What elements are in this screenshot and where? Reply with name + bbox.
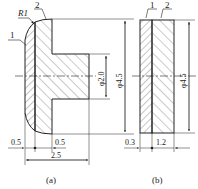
caption-a: (a) — [46, 175, 56, 185]
part2-layer — [152, 20, 174, 133]
figure-a: 1 2 R1 φ2.0 φ4.5 0.5 0.5 2.5 — [8, 0, 134, 185]
dim-outer-diameter-a: φ4.5 — [115, 73, 124, 88]
dim-total-length: 2.5 — [51, 151, 61, 160]
dim-right-offset: 0.5 — [55, 138, 65, 147]
figure-b: 1 2 φ4.5 0.3 1.2 (b) — [124, 0, 196, 185]
technical-drawing: 1 2 R1 φ2.0 φ4.5 0.5 0.5 2.5 — [0, 0, 198, 189]
label-radius: R1 — [17, 8, 28, 18]
caption-b: (b) — [152, 175, 163, 185]
part1-region — [25, 22, 35, 131]
label-part2-b: 2 — [165, 0, 170, 10]
dim-layer2-thickness: 1.2 — [156, 138, 166, 147]
dim-hub-diameter: φ2.0 — [97, 71, 106, 86]
dim-layer1-thickness: 0.3 — [125, 138, 135, 147]
dim-outer-diameter-b: φ4.5 — [179, 73, 188, 88]
part2-region — [35, 19, 89, 134]
dim-left-offset: 0.5 — [11, 138, 21, 147]
label-part2: 2 — [35, 0, 40, 10]
label-part1-b: 1 — [150, 0, 155, 10]
label-part1: 1 — [10, 30, 15, 40]
part1-layer — [140, 20, 152, 133]
